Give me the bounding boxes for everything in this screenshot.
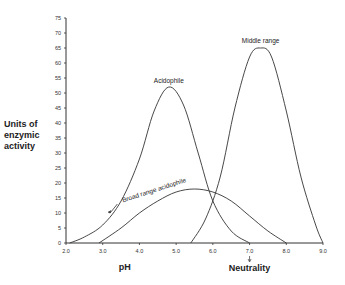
x-tick-label: 5.0 <box>172 248 180 254</box>
x-tick-label: 2.0 <box>62 248 70 254</box>
y-tick-label: 55 <box>55 75 61 81</box>
y-tick-label: 20 <box>55 180 61 186</box>
enzyme-activity-chart: 0510152025303540455055606570752.03.04.05… <box>0 0 345 285</box>
y-tick-label: 40 <box>55 120 61 126</box>
broad-range-arrowhead-icon <box>108 211 111 214</box>
middle-range-curve <box>191 48 323 243</box>
y-tick-label: 15 <box>55 195 61 201</box>
y-tick-label: 60 <box>55 60 61 66</box>
x-tick-label: 3.0 <box>99 248 107 254</box>
y-tick-label: 25 <box>55 165 61 171</box>
x-tick-label: 7.0 <box>246 248 254 254</box>
x-tick-label: 6.0 <box>209 248 217 254</box>
middle-range-label: Middle range <box>242 37 280 45</box>
y-tick-label: 45 <box>55 105 61 111</box>
y-tick-label: 65 <box>55 45 61 51</box>
acidophile-label: Acidophile <box>154 77 184 85</box>
x-tick-label: 8.0 <box>282 248 290 254</box>
y-tick-label: 70 <box>55 30 61 36</box>
y-tick-label: 0 <box>58 240 61 246</box>
y-tick-label: 50 <box>55 90 61 96</box>
x-tick-label: 4.0 <box>136 248 144 254</box>
y-tick-label: 75 <box>55 15 61 21</box>
x-tick-label: 9.0 <box>319 248 327 254</box>
neutrality-label: Neutrality <box>229 263 271 273</box>
y-tick-label: 35 <box>55 135 61 141</box>
y-tick-label: 5 <box>58 225 61 231</box>
x-axis-label: pH <box>119 262 131 272</box>
y-tick-label: 10 <box>55 210 61 216</box>
y-tick-label: 30 <box>55 150 61 156</box>
